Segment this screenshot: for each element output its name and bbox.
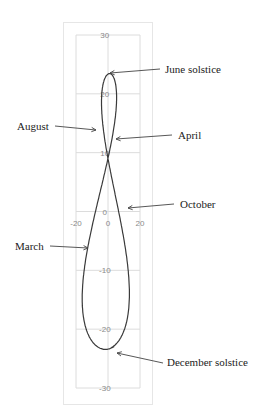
y-tick-label: -20 xyxy=(99,325,111,334)
y-tick-label: -10 xyxy=(99,266,111,275)
annotation-march: March xyxy=(15,240,44,252)
annotation-april: April xyxy=(178,129,201,141)
x-tick-label: -20 xyxy=(70,219,82,228)
annotations: June solsticeAugustAprilOctoberMarchDece… xyxy=(15,63,248,368)
x-tick-label: 0 xyxy=(106,219,111,228)
gridlines xyxy=(76,35,140,388)
arrow-april xyxy=(116,135,172,139)
y-tick-label: 30 xyxy=(100,31,109,40)
y-tick-label: 0 xyxy=(103,208,108,217)
x-tick-label: 20 xyxy=(136,219,145,228)
annotation-june-solstice: June solstice xyxy=(165,63,221,75)
annotation-august: August xyxy=(17,120,49,132)
annotation-december-solstice: December solstice xyxy=(167,356,248,368)
y-tick-label: -30 xyxy=(99,384,111,393)
arrow-march xyxy=(50,246,88,248)
annotation-october: October xyxy=(180,198,216,210)
analemma-chart: 3020100-10-20-30-20020 June solsticeAugu… xyxy=(0,0,260,418)
arrow-october xyxy=(128,204,174,208)
